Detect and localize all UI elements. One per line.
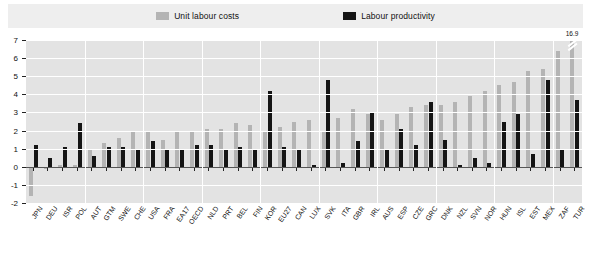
y-tick	[22, 167, 26, 168]
axis-break-mark	[567, 40, 578, 49]
bar-labour-productivity	[502, 122, 506, 167]
bar-unit-labour-costs	[483, 91, 487, 167]
value-annotation: 16.9	[566, 30, 579, 37]
gridline	[26, 112, 582, 113]
bar-unit-labour-costs	[395, 114, 399, 167]
legend-swatch-labour-productivity	[343, 12, 356, 20]
bar-unit-labour-costs	[278, 127, 282, 167]
y-tick-label: 7	[2, 36, 18, 45]
gridline	[26, 131, 582, 132]
legend-swatch-unit-labour-costs	[156, 12, 169, 20]
x-axis-label: NOR	[483, 205, 498, 222]
y-tick-label: 1	[2, 144, 18, 153]
x-axis-label: SWE	[117, 205, 132, 222]
bar-labour-productivity	[92, 156, 96, 167]
bar-labour-productivity	[268, 91, 272, 167]
bar-labour-productivity	[516, 114, 520, 167]
bar-labour-productivity	[473, 158, 477, 167]
x-axis-label: LUX	[308, 205, 322, 220]
y-tick	[22, 94, 26, 95]
y-tick-label: 5	[2, 72, 18, 81]
bar-unit-labour-costs	[117, 138, 121, 167]
bar-unit-labour-costs	[424, 105, 428, 167]
vertical-gridline	[436, 40, 437, 203]
vertical-gridline	[85, 40, 86, 203]
x-axis-label: BEL	[236, 205, 249, 220]
x-axis-label: FIN	[251, 205, 263, 218]
bar-unit-labour-costs	[336, 118, 340, 167]
legend-item-unit-labour-costs: Unit labour costs	[156, 11, 239, 21]
y-tick-label: 0	[2, 162, 18, 171]
x-axis-label: PRT	[221, 205, 235, 220]
y-tick	[22, 203, 26, 204]
bar-labour-productivity	[165, 149, 169, 167]
bar-labour-productivity	[63, 147, 67, 167]
bar-labour-productivity	[121, 147, 125, 167]
bar-labour-productivity	[107, 147, 111, 167]
x-axis-label: USA	[147, 205, 161, 221]
gridline	[26, 40, 582, 41]
vertical-gridline	[553, 40, 554, 203]
bar-unit-labour-costs	[366, 114, 370, 167]
y-tick	[22, 131, 26, 132]
bar-unit-labour-costs	[439, 105, 443, 167]
bar-unit-labour-costs	[292, 122, 296, 167]
x-axis-label: DEU	[44, 205, 58, 221]
bar-labour-productivity	[48, 158, 52, 167]
x-axis-label: CAN	[293, 205, 307, 221]
x-axis-label: DNK	[440, 205, 454, 221]
x-axis-label: CZE	[411, 205, 425, 220]
zero-line	[26, 167, 582, 168]
bar-labour-productivity	[356, 141, 360, 166]
x-axis-label: AUT	[89, 205, 103, 220]
x-axis-label: GRC	[424, 205, 439, 222]
y-tick	[22, 76, 26, 77]
vertical-gridline	[202, 40, 203, 203]
x-axis-label: ISL	[515, 205, 527, 218]
bar-labour-productivity	[253, 150, 257, 166]
bar-labour-productivity	[443, 140, 447, 167]
vertical-gridline	[260, 40, 261, 203]
x-axis-label: IRL	[369, 205, 381, 218]
x-axis-label: ISR	[61, 205, 73, 219]
gridline	[26, 58, 582, 59]
x-axis-label: NLD	[206, 205, 220, 220]
chart-figure: Unit labour costs Labour productivity JP…	[0, 0, 591, 259]
bar-labour-productivity	[429, 102, 433, 167]
bar-unit-labour-costs	[497, 85, 501, 167]
bar-labour-productivity	[531, 154, 535, 167]
bar-labour-productivity	[224, 149, 228, 167]
bar-labour-productivity	[282, 147, 286, 167]
y-tick	[22, 40, 26, 41]
bar-labour-productivity	[238, 147, 242, 167]
vertical-gridline	[319, 40, 320, 203]
bar-unit-labour-costs	[453, 102, 457, 167]
y-tick	[22, 185, 26, 186]
bars-layer	[26, 40, 582, 203]
x-axis-label: CHE	[132, 205, 146, 221]
gridline	[26, 149, 582, 150]
x-axis-label: EU27	[277, 205, 293, 223]
bar-unit-labour-costs	[29, 167, 33, 196]
x-axis-label: EST	[528, 205, 542, 220]
bar-unit-labour-costs	[102, 143, 106, 167]
gridline	[26, 203, 582, 204]
bar-labour-productivity	[297, 149, 301, 167]
gridline	[26, 76, 582, 77]
y-tick-label: 3	[2, 108, 18, 117]
y-tick	[22, 112, 26, 113]
bar-labour-productivity	[326, 80, 330, 167]
bar-labour-productivity	[560, 150, 564, 166]
x-axis-label: ZAF	[557, 205, 570, 220]
x-axis-label: ESP	[396, 205, 410, 220]
x-axis-label: SVK	[323, 205, 337, 220]
bar-labour-productivity	[370, 112, 374, 166]
y-tick-label: 2	[2, 126, 18, 135]
x-axis-label: NZL	[455, 205, 468, 220]
plot-area	[26, 40, 582, 203]
bar-labour-productivity	[136, 149, 140, 167]
x-axis-label: AUS	[381, 205, 395, 221]
y-tick	[22, 58, 26, 59]
bar-labour-productivity	[151, 141, 155, 166]
gridline	[26, 185, 582, 186]
